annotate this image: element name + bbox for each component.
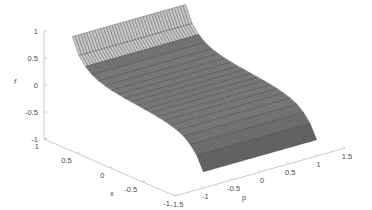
x-tick-label: -0.5	[124, 185, 137, 194]
z-tick-label: 0.5	[28, 54, 38, 63]
p-tick-label: 1.5	[342, 152, 352, 161]
z-axis-label: f	[14, 77, 17, 86]
p-tick	[286, 162, 288, 164]
surface-plot: -1-0.500.51-1-0.500.51-1.5-1-0.500.511.5…	[0, 0, 372, 210]
p-tick	[343, 146, 345, 148]
p-tick-label: -1.5	[171, 200, 184, 209]
x-axis-label: x	[110, 189, 114, 198]
x-tick-label: 1	[35, 142, 39, 151]
z-tick-label: -0.5	[25, 108, 38, 117]
p-tick-label: 0	[260, 176, 264, 185]
z-tick-label: 0	[34, 81, 38, 90]
p-tick	[201, 186, 203, 188]
surface-plot-canvas: -1-0.500.51-1-0.500.51-1.5-1-0.500.511.5…	[0, 0, 372, 210]
p-tick-label: -1	[202, 192, 209, 201]
p-tick	[230, 178, 232, 180]
p-tick	[315, 154, 317, 156]
x-tick-label: -1	[163, 199, 170, 208]
p-tick-label: -0.5	[227, 184, 240, 193]
x-tick-label: 0	[100, 171, 104, 180]
p-tick-label: 0.5	[285, 168, 295, 177]
x-tick	[77, 152, 80, 153]
p-tick-label: 1	[317, 160, 321, 169]
x-tick-label: 0.5	[61, 156, 71, 165]
x-tick	[142, 181, 145, 182]
p-axis-label: p	[242, 193, 246, 202]
x-tick	[175, 195, 178, 196]
surface-mesh	[72, 5, 316, 172]
x-tick	[110, 167, 113, 168]
p-tick	[258, 170, 260, 172]
z-tick-label: 1	[34, 27, 38, 36]
